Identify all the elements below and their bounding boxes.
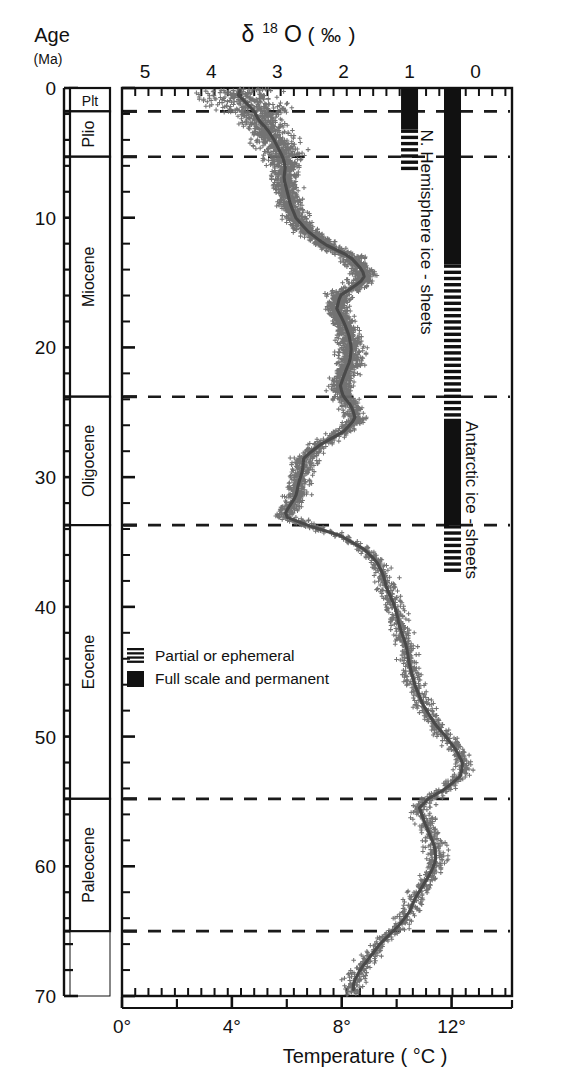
temperature-axis-title: Temperature ( °C ) (283, 1045, 448, 1067)
ice-bar-segment-partial (444, 376, 461, 379)
legend-swatch-partial (127, 656, 144, 658)
ice-bar-segment-partial (444, 538, 461, 541)
isotope-superscript: 18 (262, 20, 278, 36)
ice-bar-segment-partial (444, 314, 461, 317)
age-tick-label: 70 (35, 986, 56, 1007)
temperature-axis: 0°4°8°12°Temperature ( °C ) (113, 997, 512, 1067)
d18o-tick-label: 5 (140, 61, 151, 82)
epoch-label: Eocene (80, 635, 97, 689)
ice-bar-segment-partial (401, 142, 418, 145)
epoch-label: Paleocene (80, 827, 97, 903)
ice-bar-segment-partial (444, 525, 461, 528)
oxygen-symbol: O (284, 21, 302, 47)
cenozoic-d18o-chart: 543210δ18O(‰)010203040506070Age(Ma)PltPl… (0, 0, 583, 1076)
ice-bar-segment-partial (444, 388, 461, 391)
ice-bar-segment-partial (444, 364, 461, 367)
age-tick-label: 50 (35, 727, 56, 748)
ice-bar-segment-partial (444, 264, 461, 267)
ice-bar-segment-partial (401, 161, 418, 164)
temperature-tick-label: 0° (113, 1016, 131, 1037)
age-tick-label: 40 (35, 597, 56, 618)
age-tick-label: 60 (35, 856, 56, 877)
legend-item-label: Full scale and permanent (155, 670, 330, 687)
ice-bar-segment-partial (444, 289, 461, 292)
ice-bar-segment-partial (444, 357, 461, 360)
ice-bar-segment-partial (444, 531, 461, 534)
ice-bar-segment-full (444, 88, 461, 264)
ice-bar-segment-full (444, 419, 461, 525)
d18o-tick-label: 1 (404, 61, 415, 82)
ice-sheet-bars: N. Hemisphere ice - sheetsAntarctic ice … (401, 88, 481, 579)
ice-bar-segment-partial (444, 395, 461, 398)
age-tick-label: 20 (35, 337, 56, 358)
ice-bar-segment-partial (444, 562, 461, 565)
ice-bar-segment-partial (444, 339, 461, 342)
ice-bar-segment-partial (401, 167, 418, 170)
permil-symbol: ‰ (321, 24, 341, 46)
epoch-label: Plt (82, 93, 98, 109)
ice-bar-segment-partial (444, 556, 461, 559)
age-tick-label: 30 (35, 467, 56, 488)
temperature-tick-label: 8° (333, 1016, 351, 1037)
ice-bar-label: Antarctic ice - sheets (462, 421, 481, 579)
d18o-tick-label: 3 (272, 61, 283, 82)
ice-bar-segment-partial (444, 413, 461, 416)
ice-bar-segment-partial (444, 295, 461, 298)
ice-bar-segment-partial (401, 154, 418, 157)
ice-bar-n-hemisphere: N. Hemisphere ice - sheets (401, 88, 436, 335)
ice-bar-segment-partial (401, 148, 418, 151)
legend-item-label: Partial or ephemeral (155, 647, 295, 664)
ice-bar-segment-partial (444, 320, 461, 323)
ice-bar-segment-partial (444, 345, 461, 348)
ice-bar-antarctic: Antarctic ice - sheets (444, 88, 481, 579)
paren-close: ) (349, 23, 356, 46)
ice-bar-segment-partial (444, 401, 461, 404)
temperature-tick-label: 12° (437, 1016, 466, 1037)
epoch-label: Oligocene (80, 425, 97, 497)
ice-bar-segment-partial (444, 370, 461, 373)
ice-bar-segment-partial (444, 407, 461, 410)
legend-swatch-partial (127, 652, 144, 654)
epoch-label: Plio (80, 121, 97, 148)
paren-open: ( (308, 23, 315, 46)
plot-left-ticks (122, 88, 135, 996)
ice-bar-segment-partial (444, 326, 461, 329)
legend: Partial or ephemeralFull scale and perma… (127, 647, 330, 687)
ice-bar-segment-partial (444, 271, 461, 274)
age-axis-title: Age (34, 24, 70, 46)
d18o-axis-title: δ18O(‰) (242, 20, 356, 47)
ice-bar-segment-partial (444, 351, 461, 354)
ice-bar-segment-partial (444, 308, 461, 311)
legend-swatch-partial (127, 648, 144, 650)
ice-bar-segment-partial (444, 569, 461, 572)
d18o-tick-label: 4 (206, 61, 217, 82)
ice-bar-segment-partial (444, 333, 461, 336)
ice-bar-segment-partial (444, 544, 461, 547)
ice-bar-segment-partial (444, 277, 461, 280)
temperature-tick-label: 4° (223, 1016, 241, 1037)
ice-bar-segment-partial (444, 382, 461, 385)
ice-bar-segment-partial (444, 283, 461, 286)
legend-swatch-partial (127, 661, 144, 663)
age-tick-label: 10 (35, 208, 56, 229)
ice-bar-label: N. Hemisphere ice - sheets (417, 129, 436, 334)
epoch-label: Miocene (80, 246, 97, 307)
ice-bar-segment-partial (401, 130, 418, 133)
age-axis-unit: (Ma) (34, 51, 63, 67)
delta-symbol: δ (242, 21, 255, 47)
legend-swatch-full (127, 671, 144, 687)
d18o-tick-label: 0 (470, 61, 481, 82)
ice-bar-segment-partial (444, 302, 461, 305)
d18o-tick-label: 2 (338, 61, 349, 82)
ice-bar-segment-partial (401, 136, 418, 139)
epoch-column: PltPlioMioceneOligoceneEocenePaleocene (64, 88, 137, 996)
age-tick-label: 0 (45, 78, 56, 99)
ice-bar-segment-full (401, 88, 418, 130)
ice-bar-segment-partial (444, 550, 461, 553)
